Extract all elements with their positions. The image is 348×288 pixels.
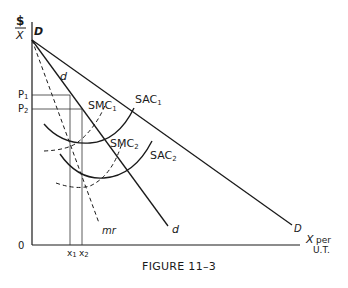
label-mr: mr — [102, 225, 117, 236]
x-axis-label-ut: U.T. — [313, 245, 330, 255]
figure-11-3-diagram: $ X 0 X per U.T. D D d d mr P1 P2 x1 x2 … — [0, 0, 348, 288]
label-P1: P1 — [18, 89, 29, 101]
label-SMC2: SMC2 — [110, 137, 139, 151]
x-axis-label-per: per — [316, 235, 331, 245]
label-SAC2: SAC2 — [150, 149, 177, 163]
y-axis-label-x: X — [15, 29, 24, 42]
label-d-bottom: d — [172, 223, 180, 236]
label-x1: x1 — [67, 248, 77, 259]
label-SMC1: SMC1 — [88, 99, 117, 113]
label-x2: x2 — [79, 248, 89, 259]
y-axis-label-dollar: $ — [16, 14, 24, 28]
label-d-top: d — [60, 70, 68, 83]
label-SAC1: SAC1 — [135, 93, 162, 107]
label-D-top: D — [34, 25, 43, 38]
origin-label: 0 — [18, 240, 24, 251]
label-D-bottom: D — [294, 223, 302, 234]
market-demand-curve-D — [32, 40, 292, 225]
figure-caption: FIGURE 11–3 — [142, 260, 216, 273]
label-P2: P2 — [18, 103, 29, 115]
